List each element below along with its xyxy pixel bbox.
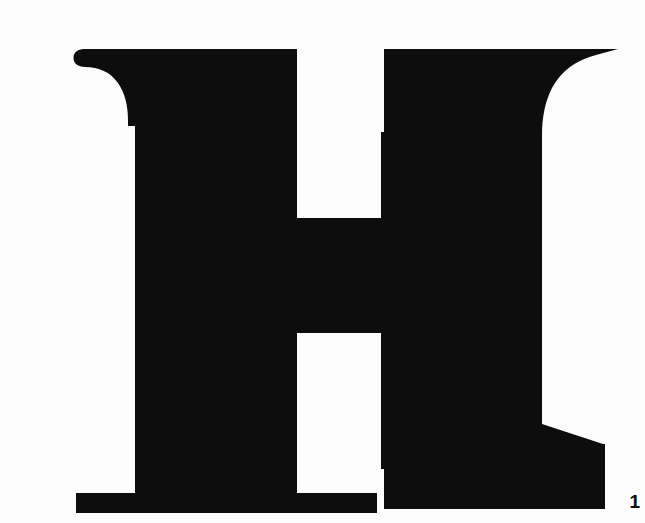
figure-caption-number: 1 bbox=[629, 492, 640, 511]
letter-h-left-stem-body bbox=[135, 120, 297, 493]
letter-h-right-foot-serif bbox=[384, 424, 605, 509]
letter-h-foot-gap bbox=[377, 469, 384, 517]
letter-h-crossbar-shape bbox=[297, 218, 381, 333]
letter-h-lower-counter-arc bbox=[302, 334, 381, 493]
letter-h-glyph-icon: Large black serif capital letter H bbox=[40, 16, 645, 523]
letter-h-left-foot-serif bbox=[76, 493, 377, 513]
glyph-figure: Large black serif capital letter H bbox=[40, 16, 645, 523]
